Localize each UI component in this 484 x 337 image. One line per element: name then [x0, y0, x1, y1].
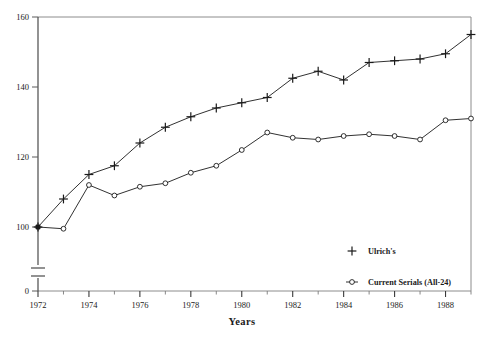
x-tick-label-1980: 1980	[233, 300, 250, 310]
x-axis-title: Years	[0, 316, 484, 327]
x-tick-label-1974: 1974	[80, 300, 98, 310]
data-point-1-1986	[392, 134, 397, 139]
x-tick-label-1978: 1978	[182, 300, 199, 310]
y-tick-label-0: 0	[25, 286, 29, 296]
y-tick-label-160: 160	[16, 12, 29, 22]
y-tick-label-120: 120	[16, 152, 29, 162]
x-tick-label-1988: 1988	[437, 300, 454, 310]
legend-marker-circle-icon	[350, 280, 355, 285]
data-point-1-1984	[341, 134, 346, 139]
x-tick-label-1986: 1986	[386, 300, 403, 310]
line-chart-canvas: 0100120140160197219741976197819801982198…	[0, 0, 484, 337]
data-point-1-1983	[316, 137, 321, 142]
data-point-1-1976	[137, 184, 142, 189]
data-point-1-1975	[112, 193, 117, 198]
data-point-1-1981	[265, 130, 270, 135]
data-point-1-1979	[214, 163, 219, 168]
data-point-1-1974	[87, 183, 92, 188]
origin-data-point-marker	[36, 225, 40, 229]
data-point-1-1988	[443, 118, 448, 123]
y-tick-label-100: 100	[16, 222, 29, 232]
x-tick-label-1984: 1984	[335, 300, 353, 310]
x-tick-label-1982: 1982	[284, 300, 301, 310]
legend-label-ulrichs: Ulrich's	[368, 247, 396, 256]
x-tick-label-1976: 1976	[131, 300, 148, 310]
data-point-1-1978	[188, 170, 193, 175]
data-point-1-1987	[418, 137, 423, 142]
x-tick-label-1972: 1972	[30, 300, 47, 310]
series-line-0	[38, 35, 471, 228]
y-tick-label-140: 140	[16, 82, 29, 92]
data-point-1-1985	[367, 132, 372, 137]
legend-label-current-serials: Current Serials (All-24)	[368, 278, 451, 287]
data-point-1-1980	[239, 148, 244, 153]
chart-figure: 0100120140160197219741976197819801982198…	[0, 0, 484, 337]
data-point-1-1973	[61, 226, 66, 231]
series-line-1	[38, 119, 471, 229]
data-point-1-1982	[290, 135, 295, 140]
data-point-1-1977	[163, 181, 168, 186]
data-point-1-1989	[469, 116, 474, 121]
